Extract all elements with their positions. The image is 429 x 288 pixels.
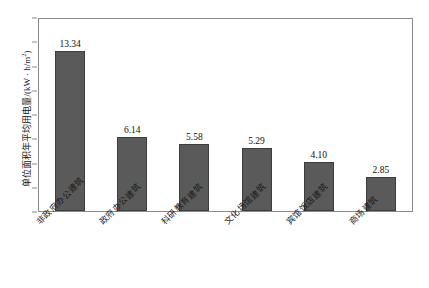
y-axis-title: 单位面积年平均用电量/(kW · h/m2) xyxy=(20,19,33,219)
bar-series: 13.346.145.585.294.102.85 xyxy=(39,19,412,211)
y-axis-tick-mark xyxy=(32,66,37,67)
y-axis-tick-mark xyxy=(32,18,37,19)
y-axis-tick-mark xyxy=(32,212,37,213)
y-axis-tick-mark xyxy=(32,163,37,164)
bar-value-label: 13.34 xyxy=(59,39,80,49)
bar-item: 2.85 xyxy=(350,19,412,211)
bar-value-label: 6.14 xyxy=(124,125,141,135)
bar-value-label: 5.29 xyxy=(248,136,265,146)
bar-chart-figure: 单位面积年平均用电量/(kW · h/m2) 0246810121416 13.… xyxy=(0,0,429,288)
y-axis-tick-mark xyxy=(32,115,37,116)
bar-value-label: 4.10 xyxy=(310,150,327,160)
y-axis-title-text: 单位面积年平均用电量/(kW · h/m xyxy=(22,57,32,187)
y-axis-tick-mark xyxy=(32,90,37,91)
y-axis-tick-mark xyxy=(32,139,37,140)
y-axis-title-superscript: 2 xyxy=(20,53,27,56)
y-axis-tick-mark xyxy=(32,187,37,188)
bar-value-label: 2.85 xyxy=(373,165,390,175)
y-axis-title-tail: ) xyxy=(22,50,32,53)
y-axis-tick-mark xyxy=(32,42,37,43)
bar-value-label: 5.58 xyxy=(186,132,203,142)
